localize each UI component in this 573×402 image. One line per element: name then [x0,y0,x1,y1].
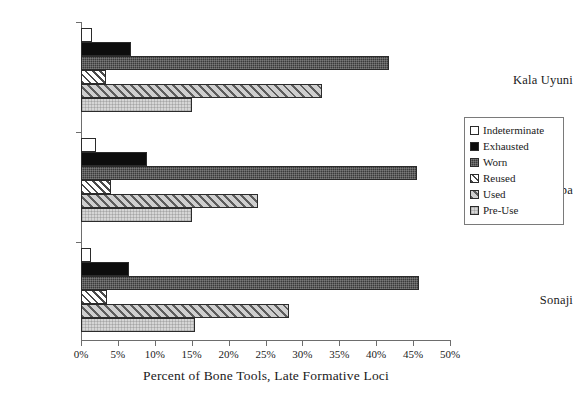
bar-reused-kumi-kipa [81,180,111,194]
legend-swatch-icon [470,142,479,151]
x-axis-tick-label: 45% [393,348,433,360]
legend-label: Used [483,189,506,200]
bar-row [81,42,450,56]
x-axis-tick-label: 20% [209,348,249,360]
x-axis-tick-label: 5% [98,348,138,360]
x-axis-tick-mark [302,341,303,346]
bar-row [81,70,450,84]
bar-reused-kala-uyuni [81,70,106,84]
legend-label: Exhausted [483,141,529,152]
bar-row [81,138,450,152]
bar-worn-kumi-kipa [81,166,417,180]
x-axis-tick-mark [81,341,82,346]
legend-swatch-icon [470,206,479,215]
bar-group [81,138,450,222]
x-axis-tick-label: 30% [282,348,322,360]
x-axis-tick-mark [192,341,193,346]
x-axis-tick-mark [229,341,230,346]
bar-row [81,304,450,318]
bar-row [81,262,450,276]
bar-row [81,208,450,222]
bar-group [81,28,450,112]
legend-label: Pre-Use [483,205,518,216]
legend-swatch-icon [470,126,479,135]
bar-row [81,290,450,304]
y-axis-label-kala-uyuni: Kala Uyuni [499,73,573,88]
legend-item-pre-use: Pre-Use [470,203,559,218]
bar-used-kala-uyuni [81,84,322,98]
plot-area [81,22,450,340]
y-axis-label-sonaji: Sonaji [499,293,573,308]
bar-row [81,28,450,42]
legend-item-used: Used [470,187,559,202]
x-axis-tick-label: 40% [356,348,396,360]
bar-row [81,318,450,332]
bar-pre-use-kumi-kipa [81,208,192,222]
x-axis-tick-mark [339,341,340,346]
bar-worn-kala-uyuni [81,56,389,70]
legend-item-indeterminate: Indeterminate [470,123,559,138]
x-axis-tick-mark [413,341,414,346]
bar-used-kumi-kipa [81,194,258,208]
bar-row [81,248,450,262]
x-axis-tick-label: 50% [430,348,470,360]
bar-used-sonaji [81,304,289,318]
x-axis-tick-label: 35% [319,348,359,360]
bar-pre-use-kala-uyuni [81,98,192,112]
bar-indeterminate-kala-uyuni [81,28,92,42]
bar-exhausted-kala-uyuni [81,42,131,56]
legend-item-worn: Worn [470,155,559,170]
bar-row [81,194,450,208]
bar-indeterminate-kumi-kipa [81,138,96,152]
legend-item-reused: Reused [470,171,559,186]
bar-row [81,56,450,70]
legend-label: Worn [483,157,507,168]
legend-swatch-icon [470,158,479,167]
bar-exhausted-kumi-kipa [81,152,147,166]
bar-reused-sonaji [81,290,107,304]
bar-row [81,152,450,166]
bar-row [81,180,450,194]
bar-row [81,276,450,290]
x-axis-tick-label: 25% [246,348,286,360]
x-axis-tick-label: 0% [61,348,101,360]
x-axis-tick-mark [450,341,451,346]
x-axis-tick-mark [155,341,156,346]
legend-swatch-icon [470,174,479,183]
chart-legend: IndeterminateExhaustedWornReusedUsedPre-… [464,117,564,225]
bar-row [81,84,450,98]
bar-exhausted-sonaji [81,262,129,276]
legend-item-exhausted: Exhausted [470,139,559,154]
x-axis-title: Percent of Bone Tools, Late Formative Lo… [81,368,451,384]
bar-indeterminate-sonaji [81,248,91,262]
x-axis-tick-label: 15% [172,348,212,360]
bar-pre-use-sonaji [81,318,195,332]
x-axis-tick-mark [118,341,119,346]
bar-group [81,248,450,332]
x-axis-tick-mark [266,341,267,346]
x-axis-tick-mark [376,341,377,346]
legend-label: Reused [483,173,515,184]
legend-label: Indeterminate [483,125,544,136]
x-axis-tick-label: 10% [135,348,175,360]
bar-row [81,166,450,180]
bar-worn-sonaji [81,276,419,290]
legend-swatch-icon [470,190,479,199]
bone-tools-bar-chart: Kala UyuniKumi KipaSonaji 0%5%10%15%20%2… [0,0,573,402]
bar-row [81,98,450,112]
